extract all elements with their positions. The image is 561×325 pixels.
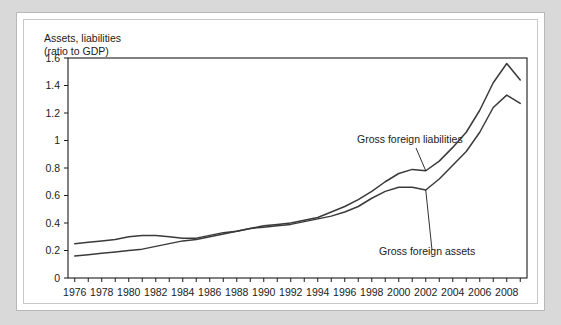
x-tick-label: 2006: [468, 286, 492, 298]
x-tick-label: 1980: [117, 286, 141, 298]
page-background: Assets, liabilities (ratio to GDP) 00.20…: [0, 0, 561, 325]
x-tick-label: 2008: [495, 286, 519, 298]
annotation-leader-line: [426, 190, 432, 250]
x-tick-label: 2004: [441, 286, 465, 298]
y-tick-label: 1.4: [45, 79, 60, 91]
series-annotation-label: Gross foreign liabilities: [357, 133, 463, 145]
x-tick-label: 1984: [171, 286, 195, 298]
y-tick-label: 0.2: [45, 244, 60, 256]
y-tick-label: 0.4: [45, 217, 60, 229]
y-tick-label: 0: [54, 272, 60, 284]
x-tick-label: 1986: [198, 286, 222, 298]
x-tick-label: 1988: [225, 286, 249, 298]
series-line: [75, 64, 521, 244]
figure-panel: Assets, liabilities (ratio to GDP) 00.20…: [17, 13, 544, 310]
x-tick-label: 1994: [306, 286, 330, 298]
x-tick-label: 1990: [252, 286, 276, 298]
y-tick-label: 1.6: [45, 52, 60, 64]
annotation-leader-line: [416, 148, 426, 171]
y-tick-label: 0.6: [45, 189, 60, 201]
y-tick-label: 0.8: [45, 162, 60, 174]
x-tick-label: 1992: [279, 286, 303, 298]
x-tick-label: 2000: [387, 286, 411, 298]
series-line: [75, 95, 521, 256]
y-tick-label: 1.2: [45, 107, 60, 119]
x-tick-label: 1978: [90, 286, 114, 298]
x-tick-label: 1982: [144, 286, 168, 298]
series-annotation-label: Gross foreign assets: [379, 245, 475, 257]
x-tick-label: 1976: [63, 286, 87, 298]
x-tick-label: 2002: [414, 286, 438, 298]
x-tick-label: 1998: [360, 286, 384, 298]
line-chart: 00.20.40.60.811.21.41.619761978198019821…: [24, 20, 539, 305]
figure-inner-border: Assets, liabilities (ratio to GDP) 00.20…: [23, 19, 538, 304]
x-tick-label: 1996: [333, 286, 357, 298]
y-tick-label: 1: [54, 134, 60, 146]
